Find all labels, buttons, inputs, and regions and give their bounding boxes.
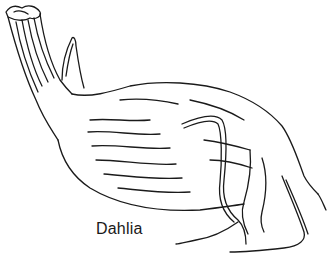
dahlia-illustration: Dahlia <box>0 0 332 264</box>
dahlia-label: Dahlia <box>96 220 143 238</box>
dahlia-tuber-drawing <box>0 0 332 264</box>
